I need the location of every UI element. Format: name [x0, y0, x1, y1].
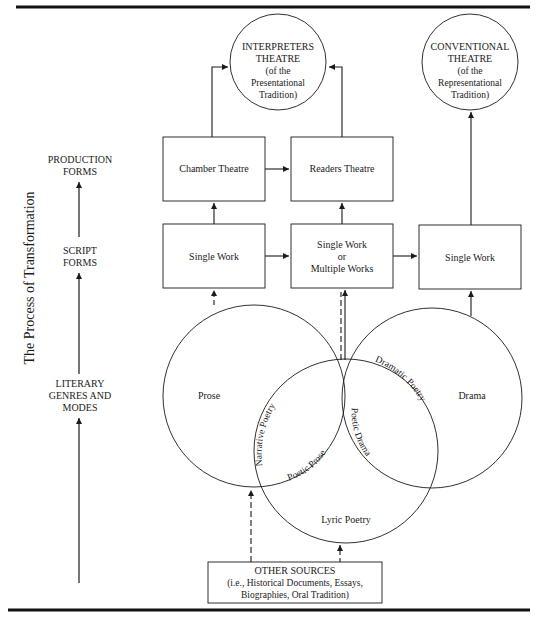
level-literary: LITERARY GENRES AND MODES — [49, 378, 112, 413]
single-work-right-box: Single Work — [419, 225, 521, 289]
poetic-drama-label: Poetic Drama — [350, 408, 374, 459]
prose-label: Prose — [198, 390, 221, 401]
dramatic-poetry-label: Dramatic Poetry — [374, 354, 428, 403]
readers-theatre-box: Readers Theatre — [291, 137, 393, 201]
svg-text:Tradition): Tradition) — [259, 90, 297, 101]
svg-text:(i.e., Historical Documents, E: (i.e., Historical Documents, Essays, — [227, 578, 363, 589]
svg-text:INTERPRETERS: INTERPRETERS — [242, 41, 314, 52]
svg-text:MODES: MODES — [62, 402, 97, 413]
drama-label: Drama — [458, 390, 486, 401]
single-or-multiple-works-box: Single Work or Multiple Works — [291, 224, 393, 288]
level-production: PRODUCTION FORMS — [48, 154, 112, 177]
svg-text:Multiple Works: Multiple Works — [311, 263, 374, 274]
svg-text:Tradition): Tradition) — [451, 90, 489, 101]
chamber-theatre-box: Chamber Theatre — [163, 137, 265, 201]
level-script: SCRIPT FORMS — [63, 245, 97, 268]
single-work-left-box: Single Work — [163, 224, 265, 288]
svg-text:CONVENTIONAL: CONVENTIONAL — [431, 41, 510, 52]
svg-text:(of the: (of the — [265, 66, 290, 77]
svg-text:Readers Theatre: Readers Theatre — [309, 163, 375, 174]
poetic-prose-label: Poetic Prose — [286, 448, 328, 483]
svg-text:THEATRE: THEATRE — [256, 53, 300, 64]
svg-text:or: or — [338, 251, 347, 262]
transformation-diagram: The Process of Transformation PRODUCTION… — [0, 0, 537, 619]
conventional-theatre-circle: CONVENTIONAL THEATRE (of the Representat… — [422, 14, 518, 110]
svg-text:FORMS: FORMS — [63, 257, 97, 268]
drama-circle — [342, 308, 522, 488]
svg-text:LITERARY: LITERARY — [56, 378, 105, 389]
svg-text:(of the: (of the — [457, 66, 482, 77]
svg-text:THEATRE: THEATRE — [448, 53, 492, 64]
svg-text:PRODUCTION: PRODUCTION — [48, 154, 112, 165]
svg-text:Biographies, Oral Tradition): Biographies, Oral Tradition) — [241, 590, 349, 601]
svg-text:OTHER SOURCES: OTHER SOURCES — [255, 565, 336, 576]
lyric-poetry-label: Lyric Poetry — [321, 514, 371, 525]
other-sources-box: OTHER SOURCES (i.e., Historical Document… — [208, 562, 382, 603]
svg-text:GENRES AND: GENRES AND — [49, 390, 112, 401]
process-label: The Process of Transformation — [22, 191, 37, 364]
narrative-poetry-label: Narrative Poetry — [254, 401, 278, 467]
svg-text:Single Work: Single Work — [189, 251, 239, 262]
interpreters-theatre-circle: INTERPRETERS THEATRE (of the Presentatio… — [230, 14, 326, 110]
svg-text:SCRIPT: SCRIPT — [63, 245, 97, 256]
svg-text:Representational: Representational — [438, 78, 502, 88]
svg-text:Presentational: Presentational — [251, 78, 305, 88]
svg-text:Chamber Theatre: Chamber Theatre — [179, 163, 249, 174]
svg-text:Single Work: Single Work — [445, 252, 495, 263]
svg-text:Single Work: Single Work — [317, 239, 367, 250]
svg-text:FORMS: FORMS — [63, 166, 97, 177]
